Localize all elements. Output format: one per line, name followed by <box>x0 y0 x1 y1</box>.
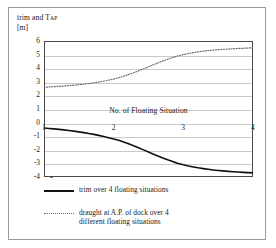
y-tick-label: 3 <box>14 78 40 85</box>
legend-line-dotted-icon <box>44 209 74 218</box>
y-tick-label: 1 <box>14 105 40 112</box>
legend-label-draught-line1: draught at A.P. of dock over 4 <box>79 208 169 217</box>
y-tick-label: -1 <box>14 132 40 139</box>
y-tick-label: 4 <box>14 64 40 71</box>
x-tick-label: 2 <box>112 124 116 131</box>
y-axis-unit: [m] <box>17 23 28 32</box>
y-axis-title: trim and TAP <box>17 13 58 23</box>
x-tick-label: 4 <box>251 124 255 131</box>
draught-line <box>44 48 253 87</box>
y-tick-label: 0 <box>14 119 40 126</box>
y-tick-mark <box>50 177 53 178</box>
legend-label-trim: trim over 4 floating situations <box>79 185 168 194</box>
chart-figure: trim and TAP [m] -4-3-2-10123456 No. of … <box>0 0 276 248</box>
y-axis-title-subscript: AP <box>50 15 58 21</box>
trim-line <box>44 128 253 173</box>
legend-label-draught-line2: different floating situations <box>79 217 161 226</box>
x-axis-title: No. of Floating Situation <box>44 107 253 115</box>
x-tick-label: 3 <box>181 124 185 131</box>
chart-legend: trim over 4 floating situations draught … <box>44 185 256 235</box>
y-axis-title-main: trim and T <box>17 13 50 22</box>
legend-item-draught: draught at A.P. of dock over 4 different… <box>44 208 256 226</box>
x-tick-label: 1 <box>42 124 46 131</box>
y-tick-label: 2 <box>14 92 40 99</box>
y-tick-label: -4 <box>14 173 40 180</box>
y-tick-label: 6 <box>14 37 40 44</box>
y-tick-label: -3 <box>14 160 40 167</box>
y-tick-label: -2 <box>14 146 40 153</box>
y-axis-tick-labels: -4-3-2-10123456 <box>10 41 40 177</box>
legend-item-trim: trim over 4 floating situations <box>44 185 256 195</box>
y-tick-label: 5 <box>14 51 40 58</box>
legend-line-solid-icon <box>44 186 74 195</box>
